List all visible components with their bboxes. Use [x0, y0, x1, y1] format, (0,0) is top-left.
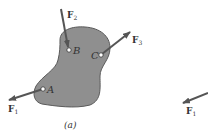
- free-body-diagram: B C A F2 F3 F1 (a) F1: [0, 0, 208, 137]
- label-f3: F3: [132, 35, 142, 46]
- label-c: C: [91, 50, 99, 61]
- partial-force-f1-arrow: [183, 93, 208, 103]
- partial-label-f1: F1: [186, 106, 196, 117]
- rigid-body: [34, 27, 110, 107]
- label-f2: F2: [67, 10, 77, 21]
- figure-caption: (a): [64, 120, 77, 130]
- label-f1: F1: [8, 104, 18, 115]
- label-b: B: [72, 45, 80, 56]
- label-a: A: [46, 84, 54, 95]
- point-c: [99, 53, 103, 57]
- point-a: [41, 87, 45, 91]
- point-b: [67, 48, 71, 52]
